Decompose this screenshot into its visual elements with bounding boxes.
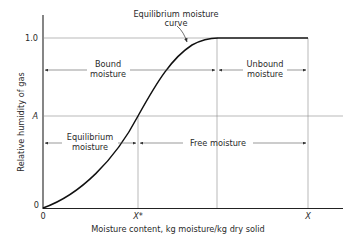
curve-annotation-line2: curve (165, 18, 188, 28)
y-tick-0: 0 (34, 200, 39, 210)
free-moisture-dimension: Free moisture (140, 138, 306, 148)
unbound-moisture-label-line1: Unbound (247, 59, 284, 69)
bound-moisture-label-line2: moisture (90, 69, 126, 79)
curve-annotation-leader (177, 26, 187, 42)
bound-moisture-label-line1: Bound (95, 59, 121, 69)
equilibrium-moisture-label-line2: moisture (72, 142, 108, 152)
x-tick-x: X (304, 211, 311, 221)
y-axis-label: Relative humidity of gas (16, 72, 26, 171)
y-tick-a: A (31, 111, 38, 121)
x-axis-label: Moisture content, kg moisture/kg dry sol… (91, 224, 264, 234)
bound-moisture-dimension: Bound moisture (45, 59, 215, 79)
unbound-moisture-dimension: Unbound moisture (219, 59, 306, 79)
equilibrium-moisture-label-line1: Equilibrium (67, 132, 113, 142)
equilibrium-moisture-diagram: Equilibrium moisture curve Bound moistur… (0, 0, 355, 240)
y-tick-1-0: 1.0 (25, 33, 38, 43)
x-tick-x-star: X* (132, 211, 143, 221)
horizontal-gridlines (43, 38, 343, 116)
x-tick-origin: 0 (40, 211, 45, 221)
free-moisture-label: Free moisture (190, 138, 246, 148)
unbound-moisture-label-line2: moisture (247, 69, 283, 79)
